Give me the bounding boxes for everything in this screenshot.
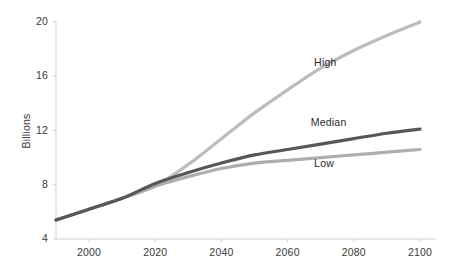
series-label-high: High [314,56,336,68]
y-axis-tick-label: 20 [22,15,48,27]
y-axis-tick-label: 4 [22,232,48,244]
y-axis-tick-label: 12 [22,124,48,136]
series-label-median: Median [311,116,347,128]
y-axis-tick-label: 8 [22,178,48,190]
x-axis-tick-label: 2000 [67,246,111,258]
series-lines [56,22,420,220]
x-axis-tick-label: 2080 [332,246,376,258]
population-projection-chart: Billions 48121620 2000202020402060208021… [0,0,451,267]
series-label-low: Low [314,157,334,169]
x-axis-tick-label: 2040 [199,246,243,258]
chart-plot-area [0,0,451,267]
series-line-median [56,129,420,220]
x-axis-tick-label: 2100 [398,246,442,258]
axes-group [56,22,436,239]
x-axis-tick-label: 2060 [266,246,310,258]
x-axis-tick-label: 2020 [133,246,177,258]
series-line-high [56,22,420,220]
y-axis-tick-label: 16 [22,69,48,81]
